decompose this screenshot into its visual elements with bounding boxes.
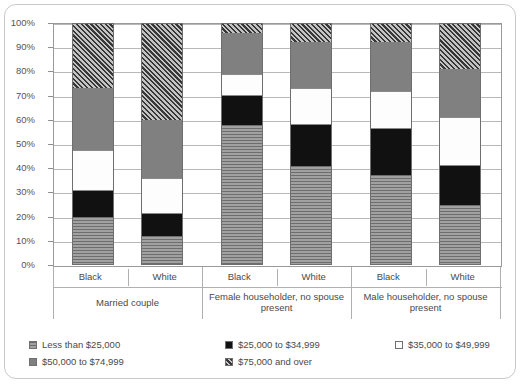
gridline bbox=[54, 24, 501, 25]
hatched-gray-swatch bbox=[225, 358, 233, 366]
legend-item: $50,000 to $74,999 bbox=[29, 356, 124, 367]
bar-segment bbox=[221, 33, 263, 74]
stacked-bar bbox=[439, 23, 481, 265]
y-axis-tick-label: 50% bbox=[0, 139, 35, 149]
bar-segment bbox=[370, 129, 412, 175]
gridline bbox=[54, 97, 501, 98]
bar-segment bbox=[290, 125, 332, 166]
y-axis-tick-label: 80% bbox=[0, 66, 35, 76]
y-axis-tick-mark bbox=[48, 217, 53, 218]
bar-segment bbox=[439, 205, 481, 265]
y-axis-tick-label: 40% bbox=[0, 163, 35, 173]
x-axis-category-label: White bbox=[277, 267, 352, 287]
y-axis-tick-label: 60% bbox=[0, 115, 35, 125]
legend-label: Less than $25,000 bbox=[42, 339, 120, 350]
gridline bbox=[54, 242, 501, 243]
y-axis-tick-mark bbox=[48, 265, 53, 266]
y-axis-tick-mark bbox=[48, 47, 53, 48]
y-axis-tick-mark bbox=[48, 96, 53, 97]
bar-segment bbox=[141, 236, 183, 265]
solid-gray-swatch bbox=[29, 358, 37, 366]
y-axis-tick-label: 100% bbox=[0, 18, 35, 28]
bar-segment bbox=[370, 91, 412, 129]
stacked-bar bbox=[72, 23, 114, 265]
bar-segment bbox=[72, 150, 114, 191]
y-axis-tick-label: 10% bbox=[0, 236, 35, 246]
legend-item: $25,000 to $34,999 bbox=[225, 339, 320, 350]
legend-label: $35,000 to $49,999 bbox=[408, 339, 490, 350]
bar-segment bbox=[221, 125, 263, 265]
bar-segment bbox=[72, 88, 114, 150]
y-axis-tick-label: 70% bbox=[0, 91, 35, 101]
y-axis-tick-mark bbox=[48, 192, 53, 193]
y-axis-tick-mark bbox=[48, 23, 53, 24]
bar-segment bbox=[221, 74, 263, 96]
gridline bbox=[54, 169, 501, 170]
bar-segment bbox=[290, 166, 332, 265]
bar-segment bbox=[439, 69, 481, 117]
y-axis-tick-label: 20% bbox=[0, 212, 35, 222]
solid-black-swatch bbox=[225, 341, 233, 349]
axis-group-divider bbox=[351, 267, 352, 319]
bar-segment bbox=[439, 166, 481, 205]
legend-item: $35,000 to $49,999 bbox=[395, 339, 490, 350]
bar-segment bbox=[290, 42, 332, 88]
bar-segment bbox=[370, 42, 412, 91]
y-axis-tick-mark bbox=[48, 120, 53, 121]
x-axis-group-label: Male householder, no spouse present bbox=[351, 287, 500, 319]
gridline bbox=[54, 218, 501, 219]
x-axis-group-label: Married couple bbox=[53, 287, 202, 319]
y-axis-tick-mark bbox=[48, 144, 53, 145]
x-axis-category-label: Black bbox=[202, 267, 277, 287]
axis-divider bbox=[426, 269, 427, 286]
stacked-bar bbox=[141, 23, 183, 265]
axis-group-divider bbox=[202, 267, 203, 319]
x-axis-category-label: Black bbox=[351, 267, 426, 287]
stacked-bar bbox=[370, 23, 412, 265]
y-axis-tick-mark bbox=[48, 168, 53, 169]
striped-gray-swatch bbox=[29, 341, 37, 349]
gridline bbox=[54, 72, 501, 73]
x-axis-category-label: Black bbox=[53, 267, 128, 287]
bar-segment bbox=[141, 120, 183, 178]
bar-segment bbox=[141, 23, 183, 120]
stacked-bar bbox=[290, 23, 332, 265]
axis-divider bbox=[277, 269, 278, 286]
gridline bbox=[54, 121, 501, 122]
x-axis-group-label: Female householder, no spouse present bbox=[202, 287, 351, 319]
plot-area bbox=[53, 23, 502, 267]
gridline bbox=[54, 145, 501, 146]
bar-segment bbox=[370, 23, 412, 42]
legend-label: $25,000 to $34,999 bbox=[238, 339, 320, 350]
chart-card: 0%10%20%30%40%50%60%70%80%90%100% BlackW… bbox=[4, 4, 516, 379]
white-swatch bbox=[395, 341, 403, 349]
legend-item: $75,000 and over bbox=[225, 356, 312, 367]
legend-label: $75,000 and over bbox=[238, 356, 312, 367]
axis-group-divider bbox=[500, 267, 501, 319]
category-axis: BlackWhiteMarried coupleBlackWhiteFemale… bbox=[53, 267, 502, 319]
bar-segment bbox=[439, 23, 481, 69]
bar-segment bbox=[290, 88, 332, 125]
bar-segment bbox=[141, 214, 183, 236]
legend-label: $50,000 to $74,999 bbox=[42, 356, 124, 367]
bar-segment bbox=[370, 175, 412, 265]
axis-group-divider bbox=[53, 267, 54, 319]
bar-segment bbox=[72, 191, 114, 217]
bar-segment bbox=[290, 23, 332, 42]
bar-segment bbox=[221, 23, 263, 33]
y-axis-tick-label: 0% bbox=[0, 260, 35, 270]
x-axis-category-label: White bbox=[426, 267, 501, 287]
axis-divider bbox=[128, 269, 129, 286]
chart-legend: Less than $25,000$25,000 to $34,999$35,0… bbox=[29, 339, 499, 375]
y-axis-tick-label: 90% bbox=[0, 42, 35, 52]
y-axis-tick-mark bbox=[48, 71, 53, 72]
bar-segment bbox=[141, 178, 183, 214]
bar-segment bbox=[221, 96, 263, 125]
bar-segment bbox=[72, 217, 114, 265]
bar-segment bbox=[72, 23, 114, 88]
legend-item: Less than $25,000 bbox=[29, 339, 120, 350]
bar-segment bbox=[439, 117, 481, 166]
x-axis-category-label: White bbox=[128, 267, 203, 287]
stacked-bar bbox=[221, 23, 263, 265]
gridline bbox=[54, 48, 501, 49]
